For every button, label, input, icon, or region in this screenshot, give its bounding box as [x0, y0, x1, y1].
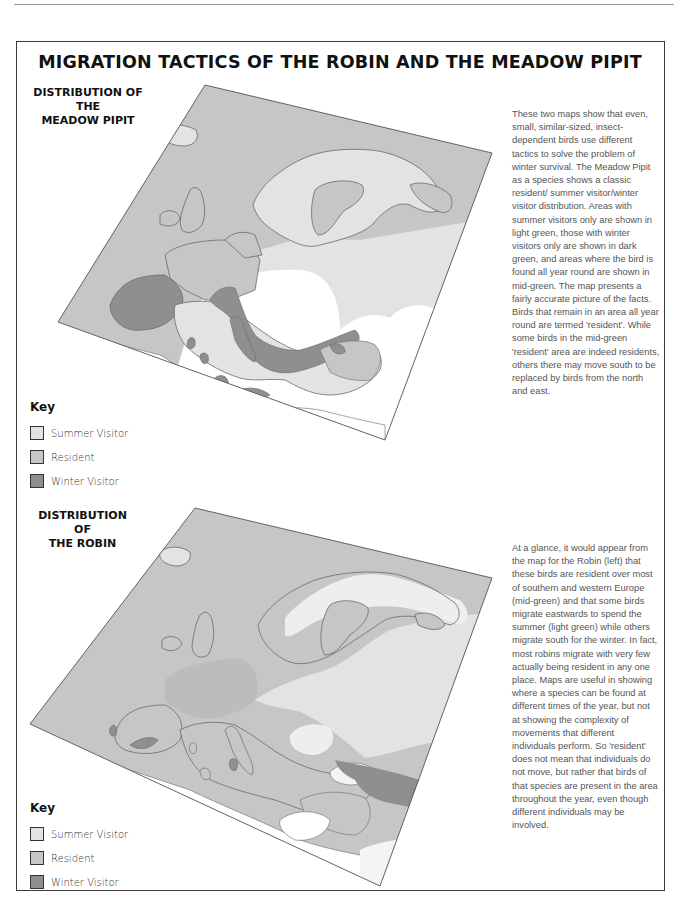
key-item-summer-visitor: Summer Visitor	[30, 421, 128, 445]
winter-visitor-swatch	[30, 474, 44, 488]
pipit-description: These two maps show that even, small, si…	[512, 108, 660, 398]
winter-visitor-swatch	[30, 875, 44, 889]
key-item-summer-visitor: Summer Visitor	[30, 822, 128, 846]
key-item-winter-visitor: Winter Visitor	[30, 870, 128, 894]
key-item-resident: Resident	[30, 445, 128, 469]
key-item-winter-visitor: Winter Visitor	[30, 469, 128, 493]
key-label: Resident	[51, 452, 94, 463]
key-label: Summer Visitor	[51, 428, 128, 439]
key-item-resident: Resident	[30, 846, 128, 870]
summer-visitor-swatch	[30, 426, 44, 440]
robin-description: At a glance, it would appear from the ma…	[512, 542, 660, 832]
robin-map-title: DISTRIBUTION OF THE ROBIN	[30, 509, 135, 551]
robin-map-key: Key Summer Visitor Resident Winter Visit…	[30, 801, 128, 894]
summer-visitor-swatch	[30, 827, 44, 841]
key-title: Key	[30, 801, 128, 815]
key-title: Key	[30, 400, 128, 414]
key-label: Winter Visitor	[51, 877, 119, 888]
robin-title-line1: DISTRIBUTION OF	[30, 509, 135, 537]
resident-swatch	[30, 450, 44, 464]
key-label: Resident	[51, 853, 94, 864]
resident-swatch	[30, 851, 44, 865]
key-label: Summer Visitor	[51, 829, 128, 840]
key-label: Winter Visitor	[51, 476, 119, 487]
robin-title-line2: THE ROBIN	[30, 537, 135, 551]
pipit-map-key: Key Summer Visitor Resident Winter Visit…	[30, 400, 128, 493]
